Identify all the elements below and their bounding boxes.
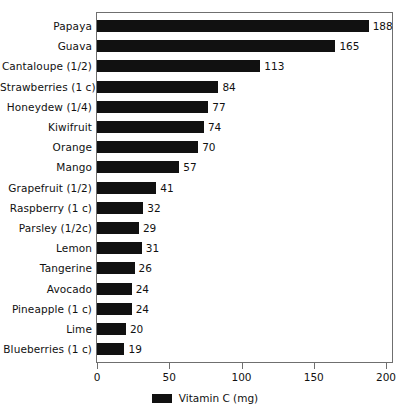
legend-swatch-vitamin-c [152,394,172,403]
bar-container: 165 [92,36,410,56]
bar-row: Papaya188 [0,16,410,36]
bar [97,101,208,113]
bar [97,182,156,194]
bar-value-label: 188 [373,20,393,32]
bar-value-label: 26 [139,262,152,274]
bar-value-label: 19 [128,343,141,355]
bar-container: 32 [92,198,410,218]
bar [97,343,124,355]
bar-container: 24 [92,299,410,319]
bar [97,283,132,295]
bar-value-label: 24 [136,303,149,315]
bar [97,222,139,234]
category-label: Honeydew (1/4) [0,101,92,113]
x-tick-mark [242,363,243,369]
category-label: Papaya [0,20,92,32]
bar-row: Honeydew (1/4)77 [0,97,410,117]
bar-row: Mango57 [0,157,410,177]
bar-row: Tangerine26 [0,258,410,278]
bar [97,242,142,254]
bar-container: 113 [92,56,410,76]
bar-row: Avocado24 [0,279,410,299]
bar-container: 31 [92,238,410,258]
bar-value-label: 113 [264,60,284,72]
bar-row: Blueberries (1 c)19 [0,339,410,359]
bar-container: 77 [92,97,410,117]
bar-row: Raspberry (1 c)32 [0,198,410,218]
bar-row: Kiwifruit74 [0,117,410,137]
bar-container: 26 [92,258,410,278]
bar-value-label: 57 [183,161,196,173]
bar-value-label: 24 [136,283,149,295]
bar-row: Lemon31 [0,238,410,258]
bar [97,81,218,93]
bar-value-label: 20 [130,323,143,335]
bar-container: 41 [92,178,410,198]
bar-container: 29 [92,218,410,238]
x-tick-label: 0 [94,371,101,383]
bar-value-label: 77 [212,101,225,113]
bar-container: 19 [92,339,410,359]
bar-value-label: 32 [147,202,160,214]
bar-container: 70 [92,137,410,157]
chart-legend: Vitamin C (mg) [0,392,410,404]
bar [97,262,135,274]
bar-container: 84 [92,77,410,97]
bar [97,40,335,52]
x-tick-mark [386,363,387,369]
x-tick-label: 100 [231,371,251,383]
x-tick-mark [97,363,98,369]
bar-row: Parsley (1/2c)29 [0,218,410,238]
bar-container: 188 [92,16,410,36]
category-label: Strawberries (1 c) [0,81,92,93]
x-tick-label: 200 [376,371,396,383]
legend-label-vitamin-c: Vitamin C (mg) [179,392,258,404]
category-label: Pineapple (1 c) [0,303,92,315]
x-tick-label: 50 [163,371,176,383]
bar [97,202,143,214]
bar-value-label: 74 [208,121,221,133]
category-label: Lemon [0,242,92,254]
category-label: Orange [0,141,92,153]
bar-value-label: 41 [160,182,173,194]
bar-row: Orange70 [0,137,410,157]
x-tick-mark [314,363,315,369]
bar-container: 74 [92,117,410,137]
bar-row: Guava165 [0,36,410,56]
bar-container: 57 [92,157,410,177]
bar-value-label: 165 [339,40,359,52]
bar [97,60,260,72]
bar-container: 20 [92,319,410,339]
bar [97,161,179,173]
bar-row: Strawberries (1 c)84 [0,77,410,97]
bar-row: Pineapple (1 c)24 [0,299,410,319]
bar-row: Grapefruit (1/2)41 [0,178,410,198]
x-tick-mark [169,363,170,369]
category-label: Kiwifruit [0,121,92,133]
bar-rows: Papaya188Guava165Cantaloupe (1/2)113Stra… [0,12,410,363]
bar-value-label: 70 [202,141,215,153]
category-label: Grapefruit (1/2) [0,182,92,194]
bar-value-label: 31 [146,242,159,254]
category-label: Cantaloupe (1/2) [0,60,92,72]
bar [97,323,126,335]
x-tick-label: 150 [304,371,324,383]
bar-container: 24 [92,279,410,299]
bar-value-label: 84 [222,81,235,93]
bar [97,303,132,315]
bar-value-label: 29 [143,222,156,234]
vitamin-c-bar-chart: Papaya188Guava165Cantaloupe (1/2)113Stra… [0,0,410,415]
bar-row: Lime20 [0,319,410,339]
category-label: Tangerine [0,262,92,274]
bar [97,121,204,133]
bar [97,141,198,153]
category-label: Mango [0,161,92,173]
category-label: Parsley (1/2c) [0,222,92,234]
bar-row: Cantaloupe (1/2)113 [0,56,410,76]
category-label: Guava [0,40,92,52]
category-label: Blueberries (1 c) [0,343,92,355]
x-axis: 050100150200 [96,363,393,387]
category-label: Lime [0,323,92,335]
bar [97,20,369,32]
category-label: Avocado [0,283,92,295]
